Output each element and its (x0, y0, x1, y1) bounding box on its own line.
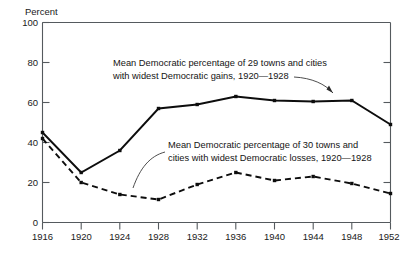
data-point-marker (389, 123, 392, 126)
y-tick-label-80: 80 (27, 57, 38, 68)
y-tick-label-20: 20 (27, 177, 38, 188)
x-tick-label-1936: 1936 (225, 231, 246, 242)
data-point-marker (118, 149, 121, 152)
data-point-marker (41, 137, 44, 140)
annotation-gains-arrowhead (327, 86, 334, 94)
data-point-marker (79, 171, 82, 174)
x-tick-label-1940: 1940 (264, 231, 285, 242)
x-axis-ticks (43, 223, 391, 230)
data-point-marker (273, 179, 276, 182)
y-axis-ticks (43, 23, 50, 223)
x-tick-label-1924: 1924 (109, 231, 130, 242)
y-tick-label-60: 60 (27, 97, 38, 108)
data-point-marker (157, 107, 160, 110)
x-tick-label-1932: 1932 (187, 231, 208, 242)
chart-svg: Percent 100 80 60 40 20 0 (0, 0, 409, 256)
data-point-marker (41, 131, 44, 134)
x-tick-label-1948: 1948 (341, 231, 362, 242)
data-point-marker (311, 100, 314, 103)
data-point-marker (311, 175, 314, 178)
annotation-gains-line2: with widest Democratic gains, 1920—1928 (112, 71, 289, 81)
data-point-marker (157, 198, 160, 201)
data-point-marker (273, 99, 276, 102)
annotation-losses-leader (133, 152, 165, 188)
y-tick-label-100: 100 (22, 17, 38, 28)
annotation-gains-leader (294, 77, 333, 93)
annotation-losses-line1: Mean Democratic percentage of 30 towns a… (168, 140, 358, 150)
data-point-marker (79, 181, 82, 184)
annotation-losses-line2: cities with widest Democratic losses, 19… (168, 153, 372, 163)
data-point-marker (389, 192, 392, 195)
data-point-marker (195, 183, 198, 186)
data-point-marker (350, 99, 353, 102)
data-point-marker (350, 182, 353, 185)
x-tick-label-1916: 1916 (32, 231, 53, 242)
data-point-marker (234, 95, 237, 98)
x-tick-label-1928: 1928 (148, 231, 169, 242)
y-tick-label-40: 40 (27, 137, 38, 148)
y-tick-label-0: 0 (33, 217, 38, 228)
figure-caption (0, 243, 409, 256)
x-tick-label-1952: 1952 (378, 231, 399, 242)
x-tick-label-1920: 1920 (71, 231, 92, 242)
data-point-marker (195, 103, 198, 106)
y-axis-title: Percent (25, 6, 58, 17)
chart-figure: Percent 100 80 60 40 20 0 (0, 0, 409, 256)
annotation-gains-line1: Mean Democratic percentage of 29 towns a… (113, 58, 327, 68)
data-point-marker (118, 193, 121, 196)
x-tick-label-1944: 1944 (303, 231, 324, 242)
data-point-marker (234, 171, 237, 174)
